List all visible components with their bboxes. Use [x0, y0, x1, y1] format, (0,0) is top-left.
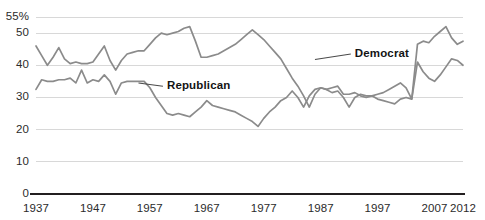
- series-lines-group: [36, 27, 463, 127]
- gridlines-group: [36, 17, 463, 162]
- x-tick-label-1957: 1957: [126, 203, 174, 215]
- democrat-label-leader-line: [315, 54, 351, 59]
- y-tick-label-10: 10: [16, 156, 29, 168]
- series-line-republican: [36, 59, 463, 127]
- y-tick-label-20: 20: [16, 124, 29, 136]
- x-tick-label-1947: 1947: [69, 203, 117, 215]
- series-line-democrat: [36, 27, 463, 107]
- y-tick-label-40: 40: [16, 59, 29, 71]
- x-tick-label-1937: 1937: [12, 203, 60, 215]
- x-tick-label-2012: 2012: [439, 203, 485, 215]
- republican-label: Republican: [167, 80, 230, 92]
- y-tick-label-50: 50: [16, 27, 29, 39]
- x-tick-label-1997: 1997: [354, 203, 402, 215]
- party-identification-line-chart: 0102030405055% 1937194719571967197719871…: [0, 0, 485, 220]
- republican-label-leader-line: [138, 83, 162, 86]
- y-tick-label-55: 55%: [6, 11, 29, 23]
- y-tick-label-30: 30: [16, 91, 29, 103]
- chart-plot-area: [0, 0, 485, 220]
- y-tick-label-0: 0: [23, 188, 30, 200]
- x-tick-label-1987: 1987: [297, 203, 345, 215]
- x-tick-label-1977: 1977: [240, 203, 288, 215]
- x-tick-label-1967: 1967: [183, 203, 231, 215]
- democrat-label: Democrat: [355, 48, 409, 60]
